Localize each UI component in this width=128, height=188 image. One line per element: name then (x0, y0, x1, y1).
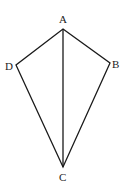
vertex-label-b: B (112, 58, 119, 70)
vertex-label-c: C (59, 171, 66, 183)
vertex-label-a: A (59, 13, 67, 25)
kite-diagram: A B C D (0, 0, 128, 188)
vertex-label-d: D (5, 60, 13, 72)
